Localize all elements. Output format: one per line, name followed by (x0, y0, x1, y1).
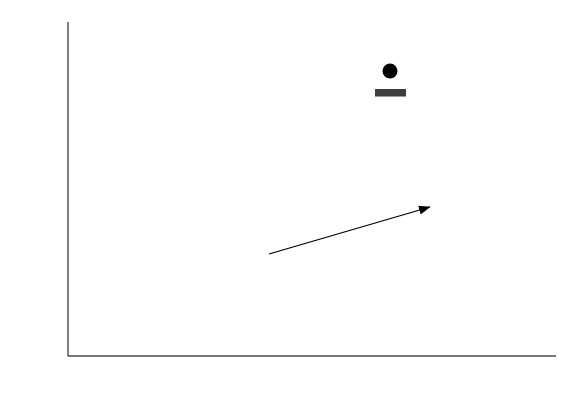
legend-expected-bar-icon (375, 89, 406, 97)
line-chart (0, 0, 562, 407)
chart-background (0, 0, 562, 407)
legend-observed-marker-icon (383, 64, 398, 79)
chart-container (0, 0, 562, 407)
